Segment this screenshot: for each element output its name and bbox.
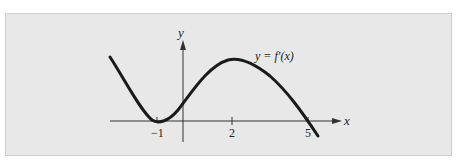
chart-svg: y x −1 2 5 y = f′(x) — [0, 0, 458, 167]
x-axis-label: x — [343, 113, 350, 128]
x-axis-arrow-icon — [332, 118, 342, 124]
curve-f-prime — [110, 57, 318, 136]
x-tick-label-neg1: −1 — [151, 126, 164, 140]
x-tick-label-2: 2 — [229, 126, 235, 140]
y-axis-arrow-icon — [180, 40, 186, 50]
y-axis-label: y — [176, 25, 184, 40]
x-tick-label-5: 5 — [305, 126, 311, 140]
curve-label: y = f′(x) — [254, 49, 294, 63]
